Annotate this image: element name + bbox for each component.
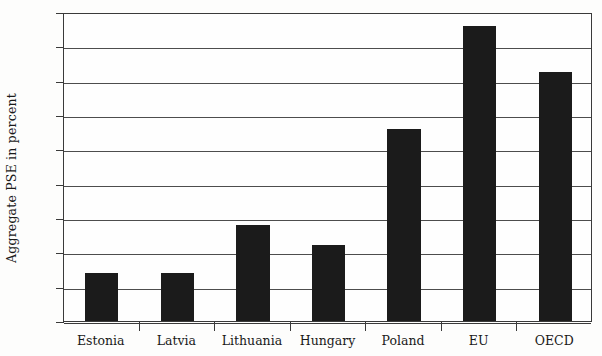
gridline: [64, 83, 591, 84]
y-axis-title: Aggregate PSE in percent: [0, 0, 22, 356]
x-axis-category-label: Lithuania: [222, 333, 282, 348]
bar: [161, 273, 194, 321]
gridline: [64, 48, 591, 49]
bar: [539, 72, 572, 321]
bar: [312, 245, 345, 321]
gridline: [64, 117, 591, 118]
gridline: [64, 186, 591, 187]
bar: [236, 225, 269, 321]
plot-area: [63, 13, 592, 322]
gridline: [64, 323, 591, 324]
bar: [463, 26, 496, 321]
x-axis-category-label: Hungary: [300, 333, 356, 348]
x-axis-category-label: Latvia: [157, 333, 196, 348]
y-axis-tick: [56, 322, 64, 323]
x-axis-category-label: Poland: [382, 333, 425, 348]
x-axis-category-label: Estonia: [77, 333, 125, 348]
x-axis-category-label: EU: [469, 333, 489, 348]
gridline: [64, 220, 591, 221]
bar: [387, 129, 420, 321]
bar-chart-figure: Aggregate PSE in percent 051015202530354…: [0, 0, 602, 356]
gridline: [64, 151, 591, 152]
bar: [85, 273, 118, 321]
x-axis-category-label: OECD: [535, 333, 574, 348]
